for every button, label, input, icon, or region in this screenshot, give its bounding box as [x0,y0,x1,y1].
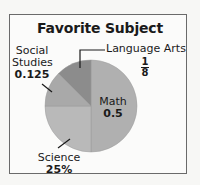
pie-chart [0,0,200,185]
label-math-value: 0.5 [99,108,127,120]
fraction-denominator: 8 [141,68,150,78]
label-science: Science 25% [36,152,82,176]
label-math: Math 0.5 [99,96,127,120]
label-science-value: 25% [36,164,82,176]
label-language-arts-fraction: 1 8 [141,57,150,78]
label-social-studies-value: 0.125 [12,69,52,81]
label-language-arts: Language Arts 1 8 [106,43,184,79]
pie-slice-science [45,106,91,152]
label-social-studies: Social Studies 0.125 [12,45,52,81]
label-language-arts-name: Language Arts [106,43,184,55]
